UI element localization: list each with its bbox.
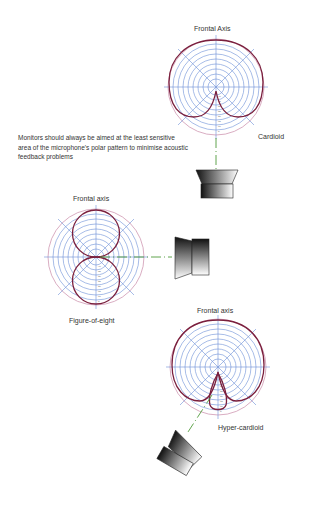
cardioid-axis-label: Frontal Axis: [194, 25, 231, 32]
speaker-wedge-icon: [157, 429, 207, 477]
hyper-cardioid-diagram: [166, 315, 270, 419]
figure-of-eight-diagram: [44, 205, 148, 309]
figure-of-eight-axis-label: Frontal axis: [73, 195, 109, 202]
speaker-wedge-icon: [196, 170, 238, 198]
speaker-wedge-icon: [175, 237, 209, 279]
cardioid-name-label: Cardioid: [258, 133, 284, 140]
cardioid-diagram: [164, 35, 268, 139]
caption-text: Monitors should always be aimed at the l…: [18, 133, 188, 162]
hyper-cardioid-axis-label: Frontal axis: [197, 307, 233, 314]
hyper-cardioid-name-label: Hyper-cardioid: [218, 424, 264, 431]
figure-of-eight-name-label: Figure-of-eight: [69, 317, 115, 324]
polar-patterns-diagram: -40-35-30 -25-20-15 -10-5: [0, 0, 316, 507]
